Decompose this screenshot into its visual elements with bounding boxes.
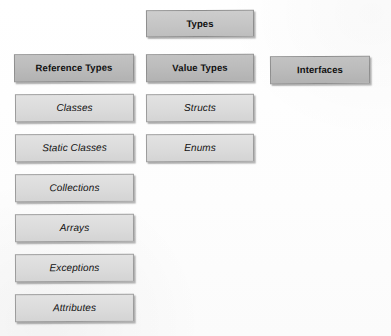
node-exceptions: Exceptions [15, 254, 134, 283]
node-interfaces: Interfaces [270, 56, 370, 85]
node-attributes: Attributes [15, 294, 134, 323]
node-label: Arrays [60, 223, 90, 233]
node-static-classes: Static Classes [15, 134, 134, 163]
node-structs: Structs [146, 94, 254, 123]
node-label: Value Types [172, 63, 227, 73]
node-label: Collections [49, 183, 99, 193]
node-types-root: Types [146, 10, 254, 38]
node-value-types: Value Types [146, 54, 254, 83]
node-label: Types [186, 19, 213, 29]
node-label: Static Classes [42, 143, 107, 153]
node-label: Classes [56, 103, 92, 113]
node-label: Structs [184, 103, 216, 113]
node-enums: Enums [146, 134, 254, 163]
node-arrays: Arrays [15, 214, 134, 243]
node-label: Enums [184, 143, 216, 153]
node-reference-types: Reference Types [14, 54, 134, 83]
node-label: Interfaces [297, 65, 343, 75]
type-hierarchy-diagram: Types Reference Types Value Types Interf… [0, 0, 391, 336]
node-collections: Collections [15, 174, 134, 203]
node-label: Reference Types [36, 63, 113, 73]
node-classes: Classes [15, 94, 134, 123]
node-label: Attributes [53, 303, 96, 313]
paper-texture [0, 0, 391, 336]
node-label: Exceptions [50, 263, 100, 273]
